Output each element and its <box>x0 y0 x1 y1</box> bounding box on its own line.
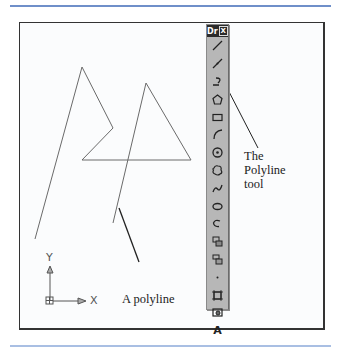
polyline-tool-button[interactable] <box>207 73 228 91</box>
arc-icon <box>211 128 224 141</box>
make-block-tool-button[interactable] <box>207 251 228 269</box>
close-icon[interactable]: X <box>219 26 228 36</box>
multiline-text-tool-button[interactable]: A <box>207 322 228 340</box>
ucs-x-label: X <box>90 294 98 307</box>
rectangle-tool-button[interactable] <box>207 108 228 126</box>
toolbar-title: Dr <box>207 27 218 36</box>
ucs-y-label: Y <box>46 251 53 264</box>
region-icon <box>211 306 224 319</box>
draw-toolbar: Dr X A <box>206 24 229 310</box>
construction-line-tool-button[interactable] <box>207 55 228 73</box>
polygon-icon <box>211 93 224 106</box>
polygon-tool-button[interactable] <box>207 90 228 108</box>
callout-line-2: Polyline <box>244 163 286 177</box>
insert-block-tool-button[interactable] <box>207 233 228 251</box>
hatch-icon <box>211 289 224 302</box>
ellipse-arc-icon <box>211 217 224 230</box>
point-icon <box>211 271 224 284</box>
circle-tool-button[interactable] <box>207 144 228 162</box>
revision-cloud-tool-button[interactable] <box>207 162 228 180</box>
polyline-callout: A polyline <box>122 292 174 306</box>
ellipse-icon <box>211 200 224 213</box>
spline-icon <box>211 182 224 195</box>
revision-cloud-icon <box>211 164 224 177</box>
spline-tool-button[interactable] <box>207 179 228 197</box>
construction-line-icon <box>211 57 224 70</box>
hatch-tool-button[interactable] <box>207 286 228 304</box>
arc-tool-button[interactable] <box>207 126 228 144</box>
ellipse-arc-tool-button[interactable] <box>207 215 228 233</box>
insert-block-icon <box>211 235 224 248</box>
top-rule <box>10 5 331 7</box>
rectangle-icon <box>211 111 224 124</box>
make-block-icon <box>211 253 224 266</box>
text-icon: A <box>213 324 222 337</box>
polyline-tool-callout: The Polyline tool <box>244 149 286 191</box>
region-tool-button[interactable] <box>207 304 228 322</box>
toolbar-titlebar[interactable]: Dr X <box>207 25 228 37</box>
line-tool-button[interactable] <box>207 37 228 55</box>
ellipse-tool-button[interactable] <box>207 197 228 215</box>
point-tool-button[interactable] <box>207 268 228 286</box>
callout-line-3: tool <box>244 177 286 191</box>
line-icon <box>211 39 224 52</box>
callout-line-1: The <box>244 149 286 163</box>
polyline-icon <box>211 75 224 88</box>
circle-icon <box>211 146 224 159</box>
